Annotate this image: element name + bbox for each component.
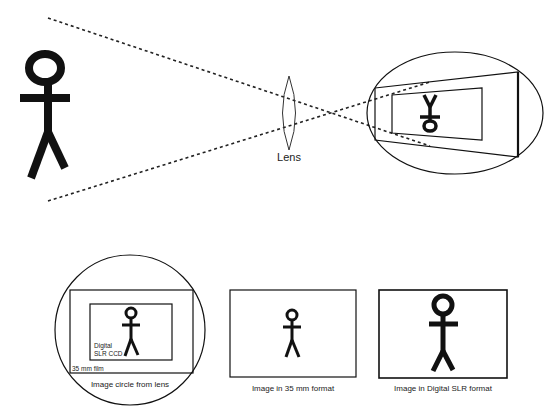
lens-label: Lens (277, 151, 301, 163)
projected-image-circle (367, 52, 543, 174)
panel1-caption: Image circle from lens (91, 380, 169, 389)
ccd-label-line1: Digital (94, 342, 113, 350)
film-label: 35 mm film (72, 365, 104, 372)
lens-icon (283, 76, 296, 150)
panel2-caption: Image in 35 mm format (252, 384, 335, 393)
panel1-stick-figure (122, 308, 140, 356)
subject-stick-figure (20, 54, 70, 178)
panel2-stick-figure (283, 310, 301, 357)
panel3-caption: Image in Digital SLR format (394, 384, 493, 393)
panel3-stick-figure (429, 296, 458, 371)
diagram-canvas: Lens Digital SLR CCD 35 mm film Image ci… (0, 0, 552, 419)
inverted-figure (420, 95, 440, 131)
light-rays (48, 18, 430, 201)
ccd-label-line2: SLR CCD (94, 350, 123, 357)
